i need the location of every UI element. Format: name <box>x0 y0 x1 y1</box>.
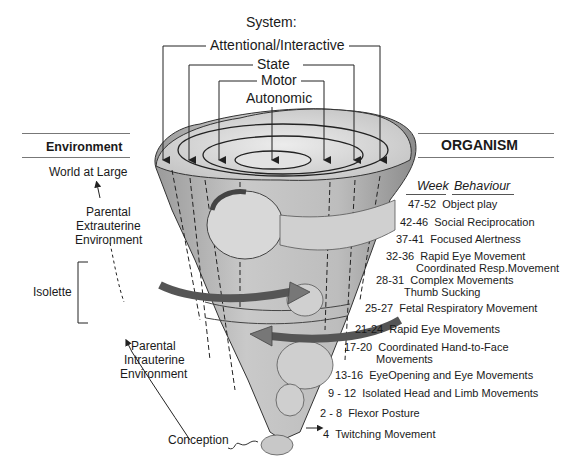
environment-header: Environment <box>46 140 122 154</box>
behaviour-value: Coordinated Hand-to-Face <box>378 341 508 353</box>
week-value: 42-46 <box>400 216 428 228</box>
env-world-at-large: World at Large <box>49 165 128 179</box>
env-conception: Conception <box>168 433 229 447</box>
week-underline <box>406 194 446 195</box>
week-value: 47-52 <box>408 198 436 210</box>
behaviour-row: 2 - 8 Flexor Posture <box>320 407 420 419</box>
behaviour-row-continuation: Coordinated Resp.Movement <box>416 262 559 274</box>
week-value: 13-16 <box>335 369 363 381</box>
behaviour-value: Complex Movements <box>410 274 513 286</box>
env-isolette: Isolette <box>33 285 72 299</box>
organism-rule-bottom <box>418 157 554 158</box>
organism-rule-top <box>418 133 554 134</box>
env-parental-extrauterine-2: Extrauterine <box>76 219 141 233</box>
sperm-tail <box>228 441 258 449</box>
behaviour-row: 28-31 Complex Movements <box>376 274 514 286</box>
system-title: System: <box>246 15 297 29</box>
behaviour-value: Twitching Movement <box>335 428 435 440</box>
ovum <box>261 435 293 455</box>
week-value: 32-36 <box>386 250 414 262</box>
behaviour-value: Rapid Eye Movements <box>389 323 500 335</box>
week-value: 25-27 <box>365 302 393 314</box>
week-value: 37-41 <box>396 233 424 245</box>
behaviour-value: Isolated Head and Limb Movements <box>362 387 538 399</box>
column-header-behaviour: Behaviour <box>454 179 510 193</box>
column-header-week: Week <box>417 179 449 193</box>
behaviour-row: 47-52 Object play <box>408 198 497 210</box>
behaviour-value: Object play <box>442 198 497 210</box>
week-value: 28-31 <box>376 274 404 286</box>
behaviour-value: EyeOpening and Eye Movements <box>369 369 533 381</box>
behaviour-value: Focused Alertness <box>430 233 521 245</box>
behaviour-underline <box>452 194 514 195</box>
week-value: 9 - 12 <box>328 387 356 399</box>
environment-rule-top <box>22 133 130 134</box>
env-parental-extrauterine-3: Environment <box>75 233 142 247</box>
behaviour-row: 42-46 Social Reciprocation <box>400 216 535 228</box>
week-value: 17-20 <box>344 341 372 353</box>
behaviour-row-continuation: Thumb Sucking <box>404 286 480 298</box>
behaviour-row: 13-16 EyeOpening and Eye Movements <box>335 369 533 381</box>
behaviour-row: 17-20 Coordinated Hand-to-Face <box>344 341 509 353</box>
behaviour-row: 25-27 Fetal Respiratory Movement <box>365 302 537 314</box>
behaviour-value: Social Reciprocation <box>434 216 534 228</box>
environment-rule-bottom <box>22 157 130 158</box>
system-level-state: State <box>253 57 294 71</box>
system-level-motor: Motor <box>257 73 301 87</box>
behaviour-row: 32-36 Rapid Eye Movement <box>386 250 525 262</box>
behaviour-value: Rapid Eye Movement <box>420 250 525 262</box>
env-parental-extrauterine-1: Parental <box>86 205 131 219</box>
organism-header: ORGANISM <box>441 138 518 152</box>
behaviour-row: 21-24 Rapid Eye Movements <box>355 323 500 335</box>
week-value: 21-24 <box>355 323 383 335</box>
system-level-attentional: Attentional/Interactive <box>206 38 349 52</box>
behaviour-row: 37-41 Focused Alertness <box>396 233 521 245</box>
week-value: 2 - 8 <box>320 407 342 419</box>
system-level-autonomic: Autonomic <box>242 91 316 105</box>
behaviour-value: Flexor Posture <box>348 407 420 419</box>
env-parental-intrauterine-2: Intrauterine <box>124 353 185 367</box>
env-parental-intrauterine-3: Environment <box>120 367 187 381</box>
behaviour-row-continuation: Movements <box>376 353 433 365</box>
week-value: 4 <box>323 428 329 440</box>
env-parental-intrauterine-1: Parental <box>131 339 176 353</box>
behaviour-row: 4 Twitching Movement <box>323 428 436 440</box>
behaviour-value: Fetal Respiratory Movement <box>399 302 537 314</box>
behaviour-row: 9 - 12 Isolated Head and Limb Movements <box>328 387 538 399</box>
